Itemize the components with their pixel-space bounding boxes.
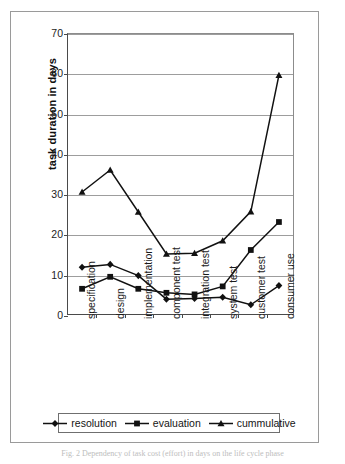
- data-point-evaluation-4: [192, 292, 198, 298]
- y-tick-label-30: 30: [51, 189, 63, 199]
- y-tick-label-60: 60: [51, 68, 63, 78]
- legend-entry-evaluation[interactable]: evaluation: [124, 417, 201, 429]
- data-point-resolution-1: [107, 261, 114, 268]
- x-tick-label-integration-test: integration test: [199, 250, 211, 319]
- x-tick-label-design: design: [114, 288, 126, 319]
- series-line-cummulative: [82, 75, 279, 254]
- x-tick-label-specification: specification: [85, 261, 97, 319]
- series-cummulative: [79, 72, 283, 257]
- data-point-evaluation-1: [107, 274, 113, 280]
- x-tick-label-customer-test: customer test: [255, 256, 267, 319]
- legend-label-evaluation: evaluation: [153, 417, 201, 429]
- legend-marker-diamond-icon: [42, 418, 68, 429]
- data-point-cummulative-6: [247, 208, 254, 214]
- y-tick-label-70: 70: [51, 28, 63, 38]
- legend-marker-square-icon: [124, 418, 150, 429]
- legend-entry-resolution[interactable]: resolution: [42, 417, 117, 429]
- data-point-cummulative-7: [275, 72, 282, 78]
- x-tick-label-component-test: component test: [170, 247, 182, 319]
- y-tick-label-0: 0: [57, 310, 63, 320]
- x-tick-label-consumer-use: consumer use: [284, 253, 296, 319]
- x-axis-tick-labels: specificationdesignimplementationcompone…: [67, 315, 294, 407]
- y-tick-label-10: 10: [51, 270, 63, 280]
- data-point-resolution-5: [219, 294, 226, 301]
- legend-entry-cummulative[interactable]: cummulative: [208, 417, 296, 429]
- data-point-evaluation-2: [135, 286, 141, 292]
- figure-caption: Fig. 2 Dependency of task cost (effort) …: [0, 449, 345, 458]
- y-tick-label-20: 20: [51, 229, 63, 239]
- y-tick-label-40: 40: [51, 149, 63, 159]
- data-point-evaluation-6: [248, 247, 254, 253]
- data-point-evaluation-5: [220, 284, 226, 290]
- figure-frame: task duration in days 010203040506070 sp…: [10, 11, 319, 443]
- data-point-cummulative-1: [107, 166, 114, 172]
- y-axis-tick-labels: 010203040506070: [31, 33, 63, 315]
- legend-label-resolution: resolution: [71, 417, 117, 429]
- chart-legend: resolutionevaluationcummulative: [58, 413, 280, 433]
- legend-marker-triangle-icon: [208, 418, 234, 429]
- data-point-evaluation-7: [276, 219, 282, 225]
- y-tick-label-50: 50: [51, 109, 63, 119]
- legend-label-cummulative: cummulative: [237, 417, 296, 429]
- x-tick-label-system-test: system test: [227, 266, 239, 319]
- data-point-evaluation-3: [164, 290, 170, 296]
- x-tick-label-implementation: implementation: [142, 248, 154, 319]
